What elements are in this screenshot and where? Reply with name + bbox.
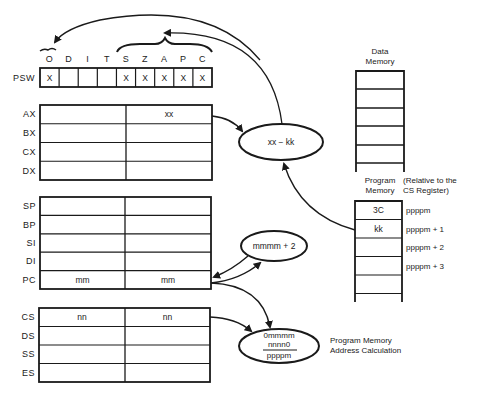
memory-cell-address: ppppm + 2	[406, 243, 445, 252]
memory-cell-value: 3C	[373, 205, 384, 215]
svg-text:xx − kk: xx − kk	[268, 137, 295, 147]
general-registers: AXxxBXCXDX	[22, 105, 212, 180]
arrow-pc-to-address-calc	[211, 283, 270, 327]
svg-text:Address Calculation: Address Calculation	[330, 346, 401, 355]
arrow-cs-to-address-calc	[210, 317, 251, 331]
register-name: SP	[23, 201, 36, 211]
svg-text:0mmmm: 0mmmm	[263, 331, 294, 340]
arithmetic-flags-brace	[117, 38, 212, 52]
register-low-byte: mm	[161, 275, 175, 285]
flag-value: X	[180, 73, 186, 83]
svg-text:mmmm + 2: mmmm + 2	[253, 241, 296, 251]
flag-label: D	[65, 54, 72, 64]
register-name: DX	[22, 166, 36, 176]
psw-label: PSW	[13, 73, 35, 83]
register-name: BX	[23, 128, 36, 138]
register-name: PC	[22, 275, 36, 285]
register-low-byte: nn	[163, 312, 173, 322]
svg-text:Program: Program	[365, 176, 396, 185]
register-name: CX	[22, 147, 36, 157]
register-name: ES	[22, 368, 35, 378]
flag-label: C	[199, 54, 206, 64]
flag-value: X	[200, 73, 206, 83]
flag-label: S	[123, 54, 130, 64]
arrow-ax-to-subtract	[212, 116, 242, 131]
svg-text:Data: Data	[372, 47, 389, 56]
overflow-brace	[40, 49, 56, 52]
memory-cell-address: ppppm	[406, 206, 431, 215]
register-high-byte: nn	[77, 312, 87, 322]
register-low-byte: xx	[165, 109, 174, 119]
pointer-registers: SPBPSIDIPCmmmm	[22, 197, 211, 289]
flag-label: P	[180, 54, 187, 64]
svg-text:ppppm: ppppm	[267, 351, 292, 360]
svg-text:CS Register): CS Register)	[403, 186, 449, 195]
flag-value: X	[47, 73, 53, 83]
subtract-operation: xx − kk	[239, 124, 323, 160]
address-calc-caption: Program Memory	[330, 336, 392, 345]
arrow-kk-to-subtract	[284, 164, 355, 230]
memory-cell-value: kk	[374, 224, 383, 234]
register-name: SS	[22, 349, 35, 359]
register-name: SI	[26, 238, 36, 248]
flag-label: Z	[142, 54, 148, 64]
register-high-byte: mm	[75, 275, 89, 285]
program-memory: Program Memory (Relative to the CS Regis…	[355, 176, 457, 302]
increment-operation: mmmm + 2	[241, 231, 307, 261]
memory-cell-address: ppppm + 3	[406, 262, 445, 271]
svg-text:Memory: Memory	[366, 57, 395, 66]
register-name: DS	[21, 331, 35, 341]
flag-value: X	[161, 73, 167, 83]
flag-label: T	[104, 54, 110, 64]
flag-label: O	[46, 54, 54, 64]
cpu-register-diagram: PSW OXDITSXZXAXPXCX AXxxBXCXDX SPBPSIDIP…	[0, 0, 487, 405]
svg-text:(Relative to the: (Relative to the	[403, 176, 457, 185]
register-name: BP	[23, 220, 36, 230]
address-calc-operation: 0mmmm nnnn0 ppppm Program Memory Address…	[239, 329, 401, 363]
segment-registers: CSnnnnDSSSES	[21, 308, 210, 382]
psw-register: PSW OXDITSXZXAXPXCX	[13, 54, 212, 87]
flag-label: A	[161, 54, 168, 64]
svg-text:nnnn0: nnnn0	[268, 340, 291, 349]
data-memory: Data Memory	[356, 47, 404, 172]
flag-value: X	[142, 73, 148, 83]
flag-value: X	[123, 73, 129, 83]
register-name: AX	[23, 109, 36, 119]
memory-cell-address: ppppm + 1	[406, 225, 445, 234]
svg-text:Memory: Memory	[366, 186, 395, 195]
register-name: CS	[21, 312, 35, 322]
flag-label: I	[86, 54, 89, 64]
register-name: DI	[26, 256, 36, 266]
